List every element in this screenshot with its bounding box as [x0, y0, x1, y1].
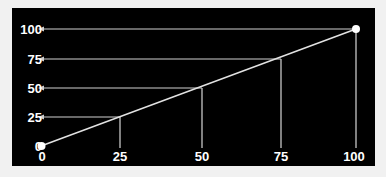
plot-background: [12, 8, 375, 166]
control-point-white[interactable]: [352, 25, 360, 33]
luma-curve-widget: LUMA: [0, 0, 386, 177]
luma-curve-panel[interactable]: LUMA: [12, 8, 375, 166]
x-tick-75: 75: [261, 150, 301, 163]
y-tick-50: 50: [12, 82, 42, 95]
x-tick-25: 25: [100, 150, 140, 163]
x-tick-100: 100: [334, 150, 374, 163]
x-tick-50: 50: [182, 150, 222, 163]
y-tick-100: 100: [12, 23, 42, 36]
x-tick-0: 0: [22, 150, 62, 163]
y-tick-75: 75: [12, 53, 42, 66]
curve-plot[interactable]: [12, 8, 375, 166]
y-tick-25: 25: [12, 111, 42, 124]
